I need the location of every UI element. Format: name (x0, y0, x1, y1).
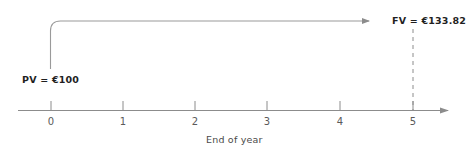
tick-label-4: 4 (330, 116, 350, 127)
tick-label-0: 0 (41, 116, 61, 127)
timeline-diagram: PV = €100 FV = €133.82 0 1 2 3 4 5 End o… (0, 0, 473, 157)
tick-label-1: 1 (113, 116, 133, 127)
axis-caption: End of year (206, 134, 263, 145)
future-value-label: FV = €133.82 (392, 15, 466, 26)
tick-label-3: 3 (257, 116, 277, 127)
tick-label-5: 5 (403, 116, 423, 127)
tick-label-2: 2 (185, 116, 205, 127)
present-value-label: PV = €100 (22, 74, 79, 85)
compounding-arrow-icon (51, 21, 370, 69)
